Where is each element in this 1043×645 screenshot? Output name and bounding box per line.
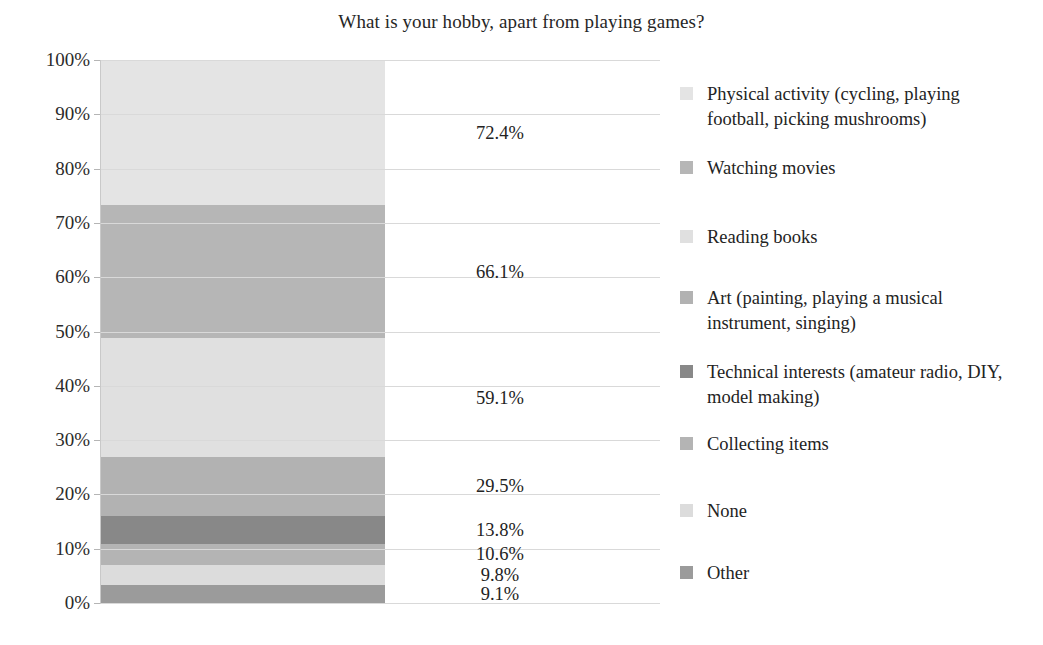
legend-item[interactable]: Physical activity (cycling, playing foot… (680, 82, 1025, 132)
value-label: 59.1% (420, 387, 580, 408)
legend-swatch-icon (680, 504, 693, 517)
legend-swatch-icon (680, 87, 693, 100)
y-axis-tick (94, 549, 100, 550)
legend-item[interactable]: None (680, 499, 747, 524)
legend-item-label: Watching movies (707, 156, 836, 181)
value-label: 9.1% (420, 583, 580, 604)
y-axis-tick (94, 60, 100, 61)
legend-item-label: Physical activity (cycling, playing foot… (707, 82, 1025, 132)
value-label: 72.4% (420, 122, 580, 143)
legend-item[interactable]: Watching movies (680, 156, 836, 181)
y-axis: 100%90%80%70%60%50%40%30%20%10%0% (10, 0, 90, 645)
y-axis-tick (94, 386, 100, 387)
y-axis-label: 100% (20, 49, 90, 71)
legend-swatch-icon (680, 365, 693, 378)
legend-item[interactable]: Collecting items (680, 432, 829, 457)
y-axis-label: 20% (20, 483, 90, 505)
gridline (101, 169, 660, 170)
y-axis-tick (94, 169, 100, 170)
bar-segment[interactable] (101, 585, 385, 603)
legend-item-label: None (707, 499, 747, 524)
legend-item[interactable]: Art (painting, playing a musical instrum… (680, 286, 1025, 336)
stacked-bar-chart: What is your hobby, apart from playing g… (0, 0, 1043, 645)
value-label: 10.6% (420, 544, 580, 565)
legend-item[interactable]: Reading books (680, 225, 817, 250)
gridline (101, 60, 660, 61)
legend-swatch-icon (680, 566, 693, 579)
bar-segment[interactable] (101, 544, 385, 565)
y-axis-label: 70% (20, 212, 90, 234)
y-axis-tick (94, 332, 100, 333)
value-label: 13.8% (420, 519, 580, 540)
y-axis-tick (94, 277, 100, 278)
y-axis-label: 50% (20, 321, 90, 343)
legend-item[interactable]: Technical interests (amateur radio, DIY,… (680, 360, 1025, 410)
bar-segment[interactable] (101, 205, 385, 338)
legend-item-label: Reading books (707, 225, 817, 250)
y-axis-label: 40% (20, 375, 90, 397)
gridline (101, 223, 660, 224)
y-axis-label: 80% (20, 158, 90, 180)
bar-segment[interactable] (101, 516, 385, 544)
y-axis-label: 0% (20, 592, 90, 614)
value-label: 66.1% (420, 261, 580, 282)
bar-segment[interactable] (101, 338, 385, 457)
gridline (101, 114, 660, 115)
bar-segment[interactable] (101, 565, 385, 585)
gridline (101, 332, 660, 333)
y-axis-label: 90% (20, 103, 90, 125)
legend-item[interactable]: Other (680, 561, 749, 586)
legend-swatch-icon (680, 161, 693, 174)
legend-item-label: Art (painting, playing a musical instrum… (707, 286, 1025, 336)
bar-segment[interactable] (101, 60, 385, 205)
y-axis-tick (94, 440, 100, 441)
y-axis-tick (94, 603, 100, 604)
legend-item-label: Other (707, 561, 749, 586)
legend-swatch-icon (680, 291, 693, 304)
legend-swatch-icon (680, 437, 693, 450)
y-axis-tick (94, 114, 100, 115)
legend-item-label: Collecting items (707, 432, 829, 457)
y-axis-label: 30% (20, 429, 90, 451)
value-label: 29.5% (420, 476, 580, 497)
gridline (101, 440, 660, 441)
legend-item-label: Technical interests (amateur radio, DIY,… (707, 360, 1025, 410)
y-axis-tick (94, 494, 100, 495)
bar-segment[interactable] (101, 457, 385, 516)
y-axis-label: 10% (20, 538, 90, 560)
legend-swatch-icon (680, 230, 693, 243)
y-axis-label: 60% (20, 266, 90, 288)
y-axis-tick (94, 223, 100, 224)
chart-title: What is your hobby, apart from playing g… (0, 11, 1043, 33)
value-label: 9.8% (420, 564, 580, 585)
